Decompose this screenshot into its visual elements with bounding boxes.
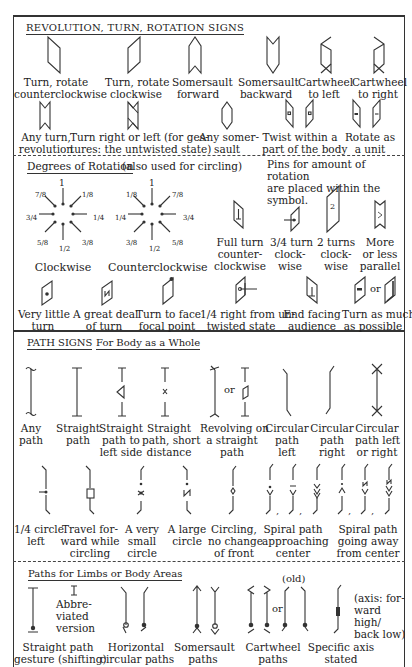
caption-revolving: Revolving ona straightpath (200, 422, 264, 458)
caption-horizontal-circular: Horizontalcircular paths (100, 641, 172, 665)
caption-any-somersault: Any somer-sault (199, 131, 255, 155)
caption-full-turn: Full turncounter-clockwise (212, 236, 268, 272)
more-or-less-parallel-icon (373, 200, 387, 230)
ccw-label-3-4: 3/4 (183, 215, 191, 222)
turn-as-much-icon-b (382, 276, 398, 304)
very-small-circle-icon (134, 464, 148, 516)
turn-to-focal-point-icon (160, 274, 176, 306)
caption-quarter-right: 1/4 right from un-twisted state (200, 308, 282, 332)
revolving-straight-path-icon-b (238, 366, 252, 418)
large-circle-icon (180, 464, 194, 516)
travel-forward-circling-icon (82, 464, 98, 516)
svg-text:,: , (371, 505, 374, 516)
caption-large-circle: A largecircle (164, 523, 210, 547)
caption-very-little-turn: Very littleturn (18, 308, 68, 332)
caption-twist-within: Twist within apart of the body (262, 131, 338, 155)
caption-cartwheel-right: Cartwheelto right (352, 76, 404, 100)
caption-three-quarter: 3/4 turnclock-wise (270, 236, 310, 272)
caption-cartwheel-left: Cartwheelto left (298, 76, 350, 100)
cartwheel-left-icon (318, 36, 338, 74)
spiral-approaching-icon: , , (264, 462, 334, 518)
turn-ccw-icon (45, 36, 65, 74)
or-label: or (370, 283, 381, 294)
two-turns-digit: 2 (330, 202, 335, 211)
great-deal-turn-icon (100, 280, 114, 306)
spiral-away-icon: , , (336, 462, 406, 518)
abbreviated-version-icon (69, 585, 79, 597)
cw-label-7-8: 7/8 (35, 192, 43, 199)
caption-specific-axis: Specific axisstated (306, 641, 376, 665)
caption-turn-right-left: Turn right or left (for ges-tures: the u… (70, 131, 200, 155)
caption-somersault-backward: Somersaultbackward (238, 76, 294, 100)
cw-label-1-2: 1/2 (59, 246, 67, 253)
very-little-turn-icon (40, 280, 54, 306)
caption-rotate-unit: Rotate asa unit (340, 131, 400, 155)
three-quarter-turn-cw-icon (282, 206, 304, 232)
caption-travel-forward: Travel for-ward whilecircling (58, 523, 122, 559)
caption-circular-right: Circularpathright (310, 422, 354, 458)
caption-somersault-paths: Somersaultpaths (174, 641, 232, 665)
specific-axis-icon (331, 583, 345, 635)
somersault-forward-icon (186, 36, 206, 74)
circular-path-either-icon (369, 362, 385, 420)
turn-as-much-icon-a (352, 276, 368, 304)
caption-straight-path: Straightpath (55, 422, 101, 446)
revolution-heading: REVOLUTION, TURN, ROTATION SIGNS (26, 22, 244, 35)
caption-any-turn: Any turn,revolution (17, 131, 75, 155)
caption-circular-either: Circularpath leftor right (355, 422, 399, 458)
ccw-label-1-2: 1/2 (149, 246, 157, 253)
degrees-heading: Degrees of Rotation (27, 160, 133, 174)
cw-label-3-8: 3/8 (82, 240, 90, 247)
circular-path-right-icon (323, 364, 337, 420)
straight-path-short-icon (158, 366, 172, 418)
full-turn-ccw-icon (232, 200, 246, 230)
turn-cw-icon (125, 36, 145, 74)
cw-label-1: 1 (59, 178, 65, 188)
caption-spiral-away: Spiral pathgoing awayfrom center (336, 523, 400, 559)
circular-path-left-icon (280, 366, 294, 420)
cw-label-1-8: 1/8 (82, 192, 90, 199)
caption-turn-as-much: Turn as muchas possible (342, 308, 404, 332)
axis-note: (axis: for-ward high/back low) (354, 592, 406, 640)
circling-no-change-icon (226, 464, 240, 516)
twist-within-part-icon (284, 99, 318, 129)
path-subheading: For Body as a Whole (96, 337, 200, 350)
old-label: (old) (282, 573, 305, 584)
clockwise-label: Clockwise (28, 262, 98, 274)
end-facing-audience-icon (305, 276, 321, 304)
any-turn-icon (38, 101, 52, 131)
cartwheel-paths-icon-b (280, 585, 310, 635)
horizontal-circular-icon (118, 585, 158, 635)
ccw-label-7-8: 7/8 (172, 192, 180, 199)
caption-end-facing: End facingaudience (283, 308, 341, 332)
path-heading: PATH SIGNS (27, 337, 92, 350)
somersault-backward-icon (264, 36, 284, 74)
ccw-label-1-8: 1/8 (126, 192, 134, 199)
turn-right-or-left-icon (126, 101, 140, 131)
straight-path-left-icon (113, 366, 129, 418)
caption-straight-path-short: Straightpath, shortdistance (142, 422, 196, 458)
counterclockwise-label: Counterclockwise (108, 262, 202, 274)
caption-spiral-approaching: Spiral pathapproachingcenter (262, 523, 324, 559)
limbs-heading: Paths for Limbs or Body Areas (28, 568, 182, 581)
cw-label-5-8: 5/8 (37, 240, 45, 247)
caption-quarter-circle: 1/4 circleleft (14, 523, 58, 547)
caption-two-turns: 2 turnsclock-wise (314, 236, 358, 272)
quarter-circle-left-icon (36, 464, 52, 516)
divider-dashed-2 (13, 561, 405, 562)
caption-circular-left: Circularpathleft (265, 422, 309, 458)
caption-turn-ccw: Turn, rotatecounterclockwise (14, 76, 98, 100)
or-label-revolving: or (224, 384, 235, 395)
caption-any-path: Anypath (16, 422, 46, 446)
any-path-icon (24, 366, 38, 418)
quarter-right-icon (233, 276, 259, 306)
divider-dashed-1 (13, 155, 405, 156)
ccw-label-5-8: 5/8 (172, 240, 180, 247)
degrees-heading-note: (also used for circling) (122, 160, 242, 172)
caption-turn-to-focal: Turn to facefocal point (136, 308, 198, 332)
cw-label-3-4: 3/4 (26, 215, 34, 222)
caption-very-small-circle: A verysmallcircle (120, 523, 164, 559)
ccw-label-1: 1 (149, 178, 155, 188)
rotate-as-unit-icon (351, 99, 385, 129)
caption-turn-cw: Turn, rotateclockwise (105, 76, 167, 100)
